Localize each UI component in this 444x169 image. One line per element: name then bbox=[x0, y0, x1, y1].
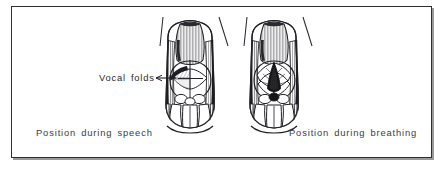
vocal-folds-label: Vocal folds bbox=[99, 72, 155, 83]
figure-root: Vocal folds Position during speech Posit… bbox=[0, 0, 444, 169]
caption-position-during-speech: Position during speech bbox=[36, 127, 153, 138]
caption-position-during-breathing: Position during breathing bbox=[289, 127, 417, 138]
